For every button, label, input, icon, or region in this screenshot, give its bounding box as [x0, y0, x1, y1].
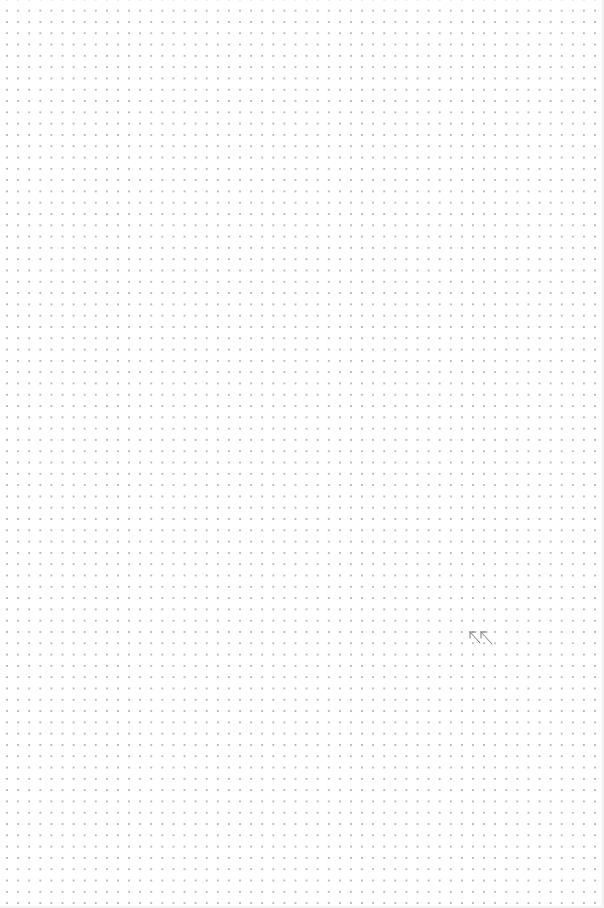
double-arrow-up-left-icon: [468, 630, 496, 648]
dot-grid-canvas[interactable]: [0, 0, 604, 908]
